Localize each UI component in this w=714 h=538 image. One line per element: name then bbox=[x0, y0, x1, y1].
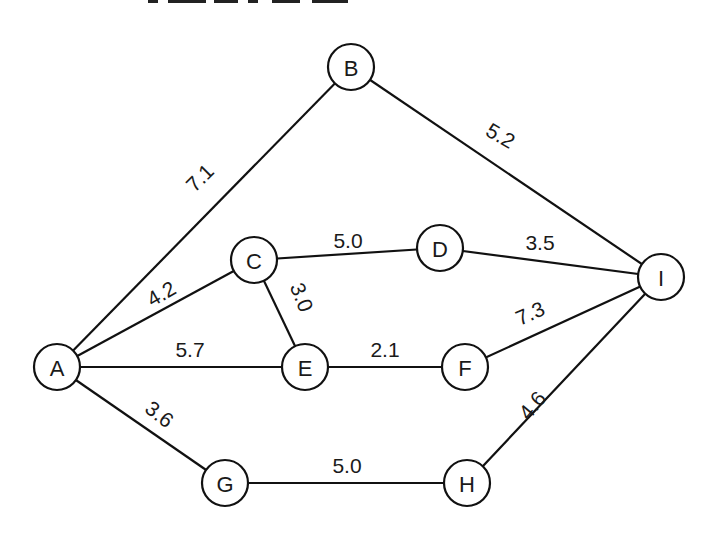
node-h: H bbox=[444, 460, 490, 506]
edges bbox=[57, 67, 661, 483]
graph-diagram: 7.15.24.25.03.03.55.72.17.33.65.04.6 ABC… bbox=[0, 0, 714, 538]
edge-h-i bbox=[467, 277, 661, 483]
edge-weight-a-b: 7.1 bbox=[181, 159, 218, 196]
node-e: E bbox=[282, 344, 328, 390]
node-d: D bbox=[417, 225, 463, 271]
node-a: A bbox=[34, 344, 80, 390]
node-label: C bbox=[246, 249, 262, 274]
edge-a-c bbox=[57, 260, 254, 367]
edge-weight-g-h: 5.0 bbox=[332, 454, 361, 477]
edge-a-b bbox=[57, 67, 351, 367]
node-label: D bbox=[432, 237, 448, 262]
node-label: I bbox=[658, 266, 664, 291]
node-label: H bbox=[459, 472, 475, 497]
edge-weight-a-e: 5.7 bbox=[175, 338, 204, 361]
node-b: B bbox=[328, 44, 374, 90]
cropped-title bbox=[148, 0, 348, 3]
node-c: C bbox=[231, 237, 277, 283]
node-g: G bbox=[202, 460, 248, 506]
edge-b-i bbox=[351, 67, 661, 277]
node-label: E bbox=[298, 356, 313, 381]
edge-weight-c-e: 3.0 bbox=[286, 279, 318, 315]
edge-weight-d-i: 3.5 bbox=[525, 231, 554, 254]
edge-weight-c-d: 5.0 bbox=[333, 229, 362, 252]
node-label: B bbox=[344, 56, 359, 81]
node-label: G bbox=[216, 472, 233, 497]
edge-weight-a-c: 4.2 bbox=[143, 276, 180, 311]
edge-weight-h-i: 4.6 bbox=[514, 387, 550, 424]
edge-weight-a-g: 3.6 bbox=[141, 396, 178, 432]
nodes: ABCDEFGHI bbox=[34, 44, 684, 506]
edge-weight-f-i: 7.3 bbox=[512, 297, 548, 330]
node-label: A bbox=[50, 356, 65, 381]
node-i: I bbox=[638, 254, 684, 300]
edge-weights: 7.15.24.25.03.03.55.72.17.33.65.04.6 bbox=[141, 118, 555, 477]
node-label: F bbox=[458, 356, 471, 381]
node-f: F bbox=[442, 344, 488, 390]
edge-f-i bbox=[465, 277, 661, 367]
edge-weight-e-f: 2.1 bbox=[370, 338, 399, 361]
edge-a-g bbox=[57, 367, 225, 483]
edge-weight-b-i: 5.2 bbox=[482, 118, 519, 153]
